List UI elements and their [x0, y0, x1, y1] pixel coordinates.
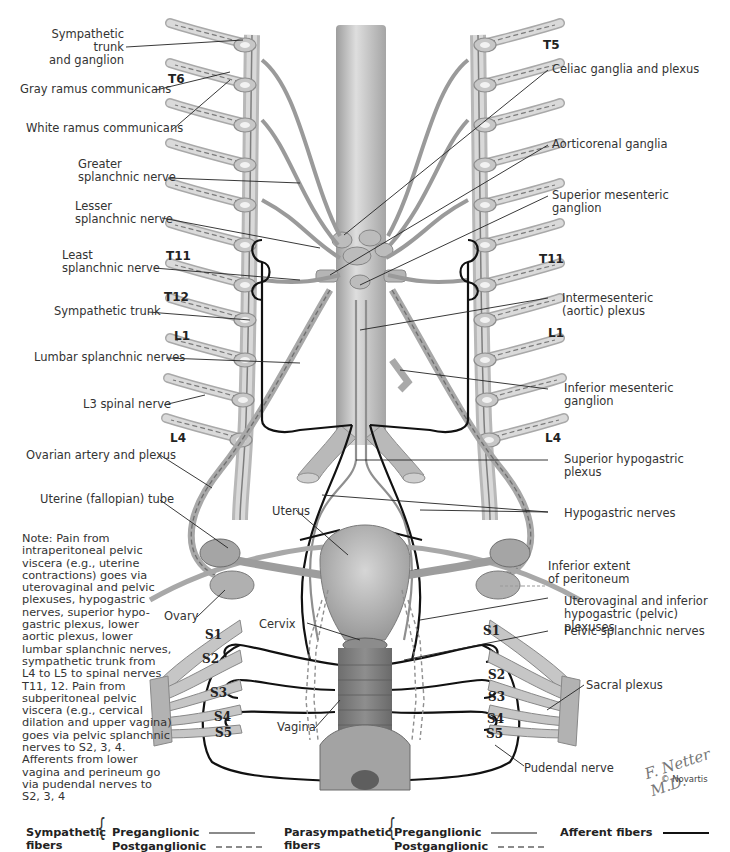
label-sympathetic-trunk: Sympathetic trunk	[54, 305, 161, 318]
label-uterine-tube: Uterine (fallopian) tube	[40, 493, 174, 506]
label-l3-spinal: L3 spinal nerve	[83, 398, 171, 411]
label-pelvic-splanchnic: Pelvic splanchnic nerves	[564, 625, 705, 638]
label-aorticorenal: Aorticorenal ganglia	[552, 138, 668, 151]
level-left-l1: L1	[174, 329, 190, 343]
dashed-gray-line-sample	[498, 846, 544, 848]
label-inferior-peritoneum: Inferior extent of peritoneum	[548, 560, 630, 586]
legend-sympathetic-label: Sympathetic fibers	[26, 826, 106, 852]
dashed-gray-line-sample	[216, 846, 262, 848]
level-sacral-left-s2: S2	[202, 652, 219, 666]
level-sacral-left-s1: S1	[205, 628, 222, 642]
level-right-l1: L1	[548, 326, 564, 340]
label-greater-splanchnic: Greater splanchnic nerve	[78, 158, 176, 184]
label-vagina: Vagina	[277, 721, 316, 734]
legend-parasympathetic-pre: Preganglionic	[394, 826, 537, 839]
level-sacral-right-s1: S1	[483, 624, 500, 638]
level-sacral-right-s5: S5	[486, 727, 503, 741]
legend-sympathetic-post: Postganglionic	[112, 840, 262, 852]
label-ovarian-artery: Ovarian artery and plexus	[26, 449, 176, 462]
label-least-splanchnic: Least splanchnic nerve	[62, 249, 160, 275]
solid-black-line-sample	[663, 832, 709, 834]
level-right-t11: T11	[539, 252, 564, 266]
copyright: © Novartis	[661, 774, 708, 784]
legend-sympathetic-pre: Preganglionic	[112, 826, 255, 839]
legend-afferent: Afferent fibers	[560, 826, 709, 839]
level-right-t5: T5	[543, 38, 560, 52]
label-intermesenteric: Intermesenteric (aortic) plexus	[562, 292, 653, 318]
label-pudendal: Pudendal nerve	[524, 762, 614, 775]
level-sacral-left-s5: S5	[215, 726, 232, 740]
level-left-t6: T6	[168, 72, 185, 86]
solid-gray-line-sample	[209, 832, 255, 834]
label-lesser-splanchnic: Lesser splanchnic nerve	[75, 200, 173, 226]
level-left-t11: T11	[166, 249, 191, 263]
legend-brace: {	[97, 822, 106, 835]
label-lumbar-splanchnic: Lumbar splanchnic nerves	[34, 351, 185, 364]
label-superior-hypogastric: Superior hypogastric plexus	[564, 453, 684, 479]
label-celiac: Celiac ganglia and plexus	[552, 63, 699, 76]
level-left-t12: T12	[164, 290, 189, 304]
left-sympathetic-chain	[166, 23, 256, 520]
level-sacral-right-s3: S3	[488, 690, 505, 704]
level-right-l4: L4	[545, 431, 561, 445]
level-sacral-left-s4: S4	[214, 710, 231, 724]
level-left-l4: L4	[170, 431, 186, 445]
label-hypogastric-nerves: Hypogastric nerves	[564, 507, 676, 520]
legend-parasympathetic-label: Parasympathetic fibers	[284, 826, 394, 852]
solid-gray-line-sample	[491, 832, 537, 834]
label-uterus: Uterus	[272, 505, 310, 518]
label-sympathetic-trunk-ganglion: Sympathetic trunk and ganglion	[30, 28, 124, 67]
level-sacral-right-s2: S2	[488, 668, 505, 682]
level-sacral-right-s4: S4	[487, 712, 504, 726]
label-inferior-mesenteric: Inferior mesenteric ganglion	[564, 382, 674, 408]
label-cervix: Cervix	[259, 618, 296, 631]
legend-parasympathetic-post: Postganglionic	[394, 840, 544, 852]
label-superior-mesenteric: Superior mesenteric ganglion	[552, 189, 669, 215]
label-white-ramus: White ramus communicans	[26, 122, 183, 135]
legend-afferent-label: Afferent fibers	[560, 826, 653, 839]
label-sacral-plexus: Sacral plexus	[586, 679, 663, 692]
label-gray-ramus: Gray ramus communicans	[20, 83, 171, 96]
clinical-note: Note: Pain from intraperitoneal pelvic v…	[22, 533, 172, 804]
level-sacral-left-s3: S3	[210, 686, 227, 700]
